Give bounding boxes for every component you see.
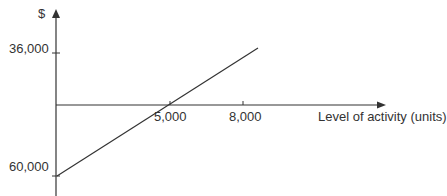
y-tick-label-top: 36,000 bbox=[9, 42, 49, 55]
y-axis-label: $ bbox=[38, 7, 45, 20]
x-axis-arrow-icon bbox=[377, 102, 386, 109]
y-tick-label-bottom: 60,000 bbox=[9, 160, 49, 173]
x-tick-label-8000: 8,000 bbox=[229, 110, 262, 123]
x-tick-label-5000: 5,000 bbox=[154, 110, 187, 123]
x-axis-label: Level of activity (units) bbox=[318, 110, 447, 123]
y-axis-arrow-icon bbox=[52, 9, 60, 18]
